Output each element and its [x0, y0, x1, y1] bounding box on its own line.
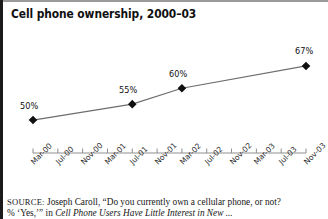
source-line1: Joseph Caroll, “Do you currently own a c… [47, 197, 281, 207]
chart-title: Cell phone ownership, 2000–03 [11, 7, 196, 21]
data-value-label: 67% [295, 46, 313, 56]
source-note: SOURCE: Joseph Caroll, “Do you currently… [7, 197, 325, 219]
top-rule [0, 0, 328, 2]
source-line2-italic: Cell Phone Users Have Little Interest in… [55, 208, 233, 218]
source-line2: % ‘Yes,’” in Cell Phone Users Have Littl… [7, 208, 325, 219]
plot-svg [0, 28, 328, 158]
source-line2-plain: % ‘Yes,’” in [7, 208, 55, 218]
data-value-label: 50% [20, 101, 38, 111]
chart-page: Cell phone ownership, 2000–03 50%55%60%6… [0, 0, 328, 219]
plot-area: 50%55%60%67% [0, 28, 328, 158]
data-value-label: 55% [119, 85, 137, 95]
data-point-marker [29, 116, 38, 125]
source-prefix: SOURCE: [7, 197, 45, 207]
x-axis-tick-labels: Mar-00Jul-00Nov-00Mar-01Jul-01Nov-01Mar-… [0, 160, 328, 198]
data-point-marker [302, 62, 311, 71]
data-point-marker [178, 84, 187, 93]
data-value-label: 60% [169, 69, 187, 79]
data-point-marker [128, 100, 137, 109]
